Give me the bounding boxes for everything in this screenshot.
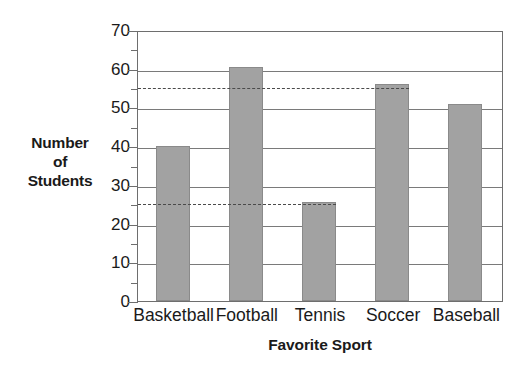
y-axis-tick-label: 40 bbox=[96, 138, 130, 155]
plot-inner bbox=[138, 32, 502, 301]
x-axis-tick-labels: BasketballFootballTennisSoccerBaseball bbox=[137, 305, 503, 331]
y-axis-tick-label: 20 bbox=[96, 216, 130, 233]
bar-basketball bbox=[156, 146, 190, 301]
y-axis-major-tick bbox=[128, 302, 138, 303]
x-axis-tick-label-baseball: Baseball bbox=[408, 305, 525, 326]
bar-football bbox=[229, 67, 263, 301]
gridline bbox=[138, 71, 502, 72]
x-axis-title: Favorite Sport bbox=[137, 336, 503, 354]
bar-baseball bbox=[448, 104, 482, 301]
y-axis-tick-label: 60 bbox=[96, 61, 130, 78]
reference-line-0 bbox=[138, 88, 409, 89]
y-axis-tick-label: 50 bbox=[96, 99, 130, 116]
y-axis-tick-label: 70 bbox=[96, 22, 130, 39]
bar-soccer bbox=[375, 84, 409, 301]
bar-chart-figure: Number of Students 010203040506070 Baske… bbox=[0, 0, 525, 381]
y-axis-tick-label: 10 bbox=[96, 254, 130, 271]
reference-line-1 bbox=[138, 204, 336, 205]
bar-tennis bbox=[302, 202, 336, 301]
y-axis-tick-label: 30 bbox=[96, 177, 130, 194]
plot-area bbox=[137, 31, 503, 302]
y-axis-tick-labels: 010203040506070 bbox=[90, 31, 130, 302]
